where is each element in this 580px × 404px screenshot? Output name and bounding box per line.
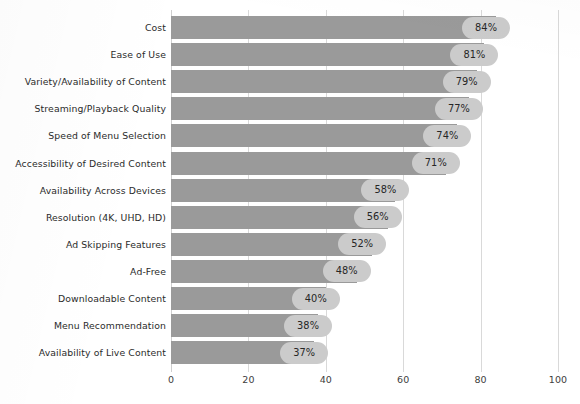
x-tick-label-20: 20 bbox=[242, 374, 254, 385]
value-label-2: 79% bbox=[443, 71, 491, 93]
x-tick-label-40: 40 bbox=[320, 374, 332, 385]
x-tick-label-0: 0 bbox=[168, 374, 174, 385]
bar-row: Downloadable Content40% bbox=[0, 287, 580, 310]
bar-2 bbox=[171, 70, 477, 93]
bar-0 bbox=[171, 16, 496, 39]
bar-row: Resolution (4K, UHD, HD)56% bbox=[0, 206, 580, 229]
category-label-11: Menu Recommendation bbox=[54, 314, 166, 337]
category-label-9: Ad-Free bbox=[130, 260, 166, 283]
x-tick-label-80: 80 bbox=[474, 374, 486, 385]
value-label-4: 74% bbox=[423, 125, 471, 147]
bar-5 bbox=[171, 152, 446, 175]
category-label-12: Availability of Live Content bbox=[39, 341, 166, 364]
value-label-6: 58% bbox=[361, 179, 409, 201]
category-label-5: Accessibility of Desired Content bbox=[15, 152, 166, 175]
bar-row: Streaming/Playback Quality77% bbox=[0, 97, 580, 120]
category-label-0: Cost bbox=[145, 16, 166, 39]
bar-row: Availability of Live Content37% bbox=[0, 341, 580, 364]
value-label-9: 48% bbox=[323, 260, 371, 282]
value-label-8: 52% bbox=[338, 233, 386, 255]
value-label-11: 38% bbox=[284, 315, 332, 337]
bar-1 bbox=[171, 43, 484, 66]
bar-row: Cost84% bbox=[0, 16, 580, 39]
bar-row: Speed of Menu Selection74% bbox=[0, 124, 580, 147]
bar-row: Availability Across Devices58% bbox=[0, 179, 580, 202]
value-label-1: 81% bbox=[450, 44, 498, 66]
category-label-10: Downloadable Content bbox=[58, 287, 166, 310]
value-label-7: 56% bbox=[354, 206, 402, 228]
value-label-5: 71% bbox=[412, 152, 460, 174]
x-tick-label-60: 60 bbox=[397, 374, 409, 385]
category-label-3: Streaming/Playback Quality bbox=[35, 97, 166, 120]
x-tick-label-100: 100 bbox=[549, 374, 567, 385]
value-label-10: 40% bbox=[292, 288, 340, 310]
bar-row: Ease of Use81% bbox=[0, 43, 580, 66]
bar-row: Accessibility of Desired Content71% bbox=[0, 152, 580, 175]
category-label-4: Speed of Menu Selection bbox=[48, 124, 166, 147]
value-label-3: 77% bbox=[435, 98, 483, 120]
bar-row: Variety/Availability of Content79% bbox=[0, 70, 580, 93]
bar-row: Ad-Free48% bbox=[0, 260, 580, 283]
category-label-1: Ease of Use bbox=[111, 43, 166, 66]
bar-row: Ad Skipping Features52% bbox=[0, 233, 580, 256]
category-label-2: Variety/Availability of Content bbox=[25, 70, 166, 93]
bar-row: Menu Recommendation38% bbox=[0, 314, 580, 337]
bar-4 bbox=[171, 124, 457, 147]
bar-chart: 020406080100 Cost84%Ease of Use81%Variet… bbox=[0, 0, 580, 404]
value-label-0: 84% bbox=[462, 17, 510, 39]
category-label-8: Ad Skipping Features bbox=[66, 233, 166, 256]
category-label-7: Resolution (4K, UHD, HD) bbox=[46, 206, 166, 229]
value-label-12: 37% bbox=[280, 342, 328, 364]
category-label-6: Availability Across Devices bbox=[40, 179, 166, 202]
bar-3 bbox=[171, 97, 469, 120]
